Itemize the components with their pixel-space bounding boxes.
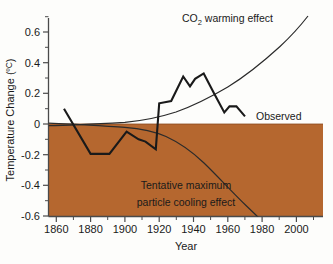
x-tick-label-1880: 1880: [78, 223, 102, 235]
annotation-co2-main: CO: [182, 12, 198, 24]
y-tick-label-0: 0.6: [25, 26, 40, 38]
x-tick-label-2000: 2000: [284, 223, 308, 235]
x-tick-label-1860: 1860: [44, 223, 68, 235]
annotation-co2-rest: warming effect: [202, 12, 273, 24]
x-tick-label-1900: 1900: [113, 223, 137, 235]
y-tick-label-2: 0.2: [25, 87, 40, 99]
x-tick-label-1960: 1960: [216, 223, 240, 235]
chart-figure: 0.6 0.4 0.2 0 -0.2 -0.4 -0.6: [0, 0, 333, 264]
y-axis-title: Temperature Change (ºC): [4, 59, 16, 182]
y-axis-title-group: Temperature Change (ºC): [4, 59, 16, 182]
y-axis-title-close: ): [4, 59, 16, 63]
y-axis-title-unit: ºC: [4, 62, 14, 71]
annotation-cooling-line2: particle cooling effect: [137, 196, 236, 208]
chart-svg: 0.6 0.4 0.2 0 -0.2 -0.4 -0.6: [0, 0, 333, 264]
y-tick-label-1: 0.4: [25, 57, 40, 69]
x-tick-label-1940: 1940: [181, 223, 205, 235]
x-axis-title: Year: [175, 240, 198, 252]
x-tick-label-1920: 1920: [147, 223, 171, 235]
annotation-observed: Observed: [256, 110, 302, 122]
annotation-cooling-line1: Tentative maximum: [141, 179, 232, 191]
y-axis-title-main: Temperature Change (: [4, 71, 16, 181]
y-tick-label-3: 0: [34, 118, 40, 130]
y-tick-label-6: -0.6: [21, 210, 40, 222]
y-tick-label-4: -0.2: [21, 149, 40, 161]
x-tick-label-1980: 1980: [250, 223, 274, 235]
y-tick-label-5: -0.4: [21, 179, 40, 191]
